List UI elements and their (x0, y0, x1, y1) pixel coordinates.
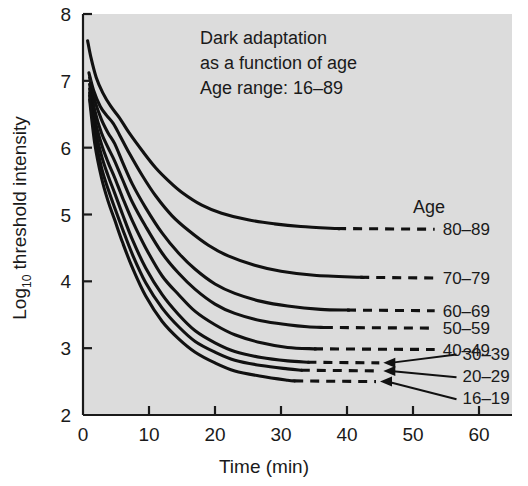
chart-svg: 23456780102030405060 80–8970–7960–6950–5… (0, 0, 528, 486)
title-line-1: Dark adaptation (200, 28, 327, 48)
series-label-50-59: 50–59 (443, 319, 490, 338)
y-axis-label: Log10 threshold intensity (9, 116, 34, 320)
series-label-30-39: 30–39 (463, 345, 510, 364)
y-tick-label: 3 (60, 338, 71, 359)
y-tick-label: 7 (60, 71, 71, 92)
legend-title: Age (413, 197, 445, 217)
y-tick-label: 6 (60, 138, 71, 159)
series-label-20-29: 20–29 (463, 367, 510, 386)
y-tick-label: 8 (60, 4, 71, 25)
y-tick-label: 2 (60, 405, 71, 426)
x-axis-label: Time (min) (219, 456, 309, 477)
y-axis-label-main: threshold intensity (9, 116, 30, 270)
dark-adaptation-figure: 23456780102030405060 80–8970–7960–6950–5… (0, 0, 528, 486)
series-label-60-69: 60–69 (443, 302, 490, 321)
series-label-80-89: 80–89 (443, 220, 490, 239)
x-tick-label: 20 (204, 424, 225, 445)
series-label-70-79: 70–79 (443, 269, 490, 288)
svg-text:Log10 threshold intensity: Log10 threshold intensity (9, 116, 34, 320)
y-axis-label-prefix: Log (9, 288, 30, 320)
x-tick-label: 10 (138, 424, 159, 445)
x-tick-label: 50 (402, 424, 423, 445)
series-label-16-19: 16–19 (463, 389, 510, 408)
y-tick-label: 5 (60, 205, 71, 226)
x-tick-label: 60 (468, 424, 489, 445)
x-tick-label: 30 (270, 424, 291, 445)
y-tick-label: 4 (60, 271, 71, 292)
x-tick-label: 0 (78, 424, 89, 445)
y-axis-label-subscript: 10 (20, 274, 34, 288)
title-line-3: Age range: 16–89 (200, 78, 343, 98)
title-line-2: as a function of age (200, 53, 357, 73)
x-tick-label: 40 (336, 424, 357, 445)
